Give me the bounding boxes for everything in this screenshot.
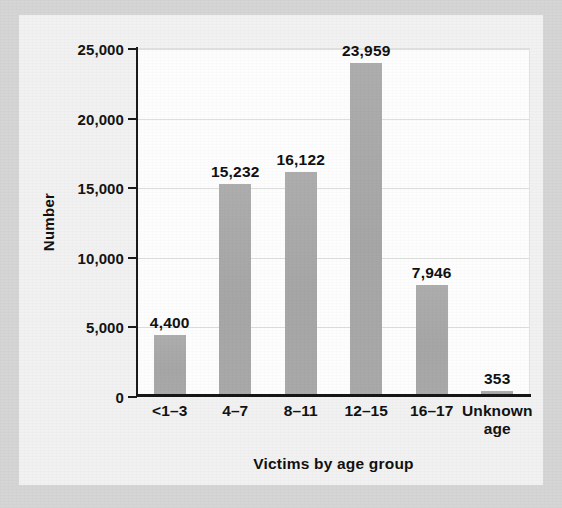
bar[interactable]: [154, 335, 186, 396]
x-axis-tick-label: <1–3: [152, 402, 187, 420]
y-axis-tick-label: 25,000: [78, 41, 124, 58]
bar[interactable]: [219, 184, 251, 396]
x-axis-title: Victims by age group: [137, 455, 530, 473]
x-axis-tick-label: 12–15: [344, 402, 388, 420]
y-axis-title: Number: [40, 193, 57, 251]
gridline: [137, 49, 529, 50]
y-axis-tick-label: 0: [116, 389, 124, 406]
bar-value-label: 15,232: [211, 163, 260, 181]
plot-area: 05,00010,00015,00020,00025,0004,40015,23…: [137, 48, 530, 396]
bar[interactable]: [350, 63, 382, 397]
bar-value-label: 353: [484, 370, 510, 388]
x-axis-tick-label: 4–7: [222, 402, 248, 420]
y-axis-tick-label: 10,000: [78, 249, 124, 266]
bar[interactable]: [416, 285, 448, 396]
gridline: [137, 258, 529, 259]
gridline: [137, 119, 529, 120]
x-axis-tick-label: Unknownage: [459, 402, 535, 438]
gridline: [137, 188, 529, 189]
bar-value-label: 7,946: [412, 264, 452, 282]
bar[interactable]: [285, 172, 317, 396]
y-axis-tick-label: 15,000: [78, 180, 124, 197]
gridline: [137, 327, 529, 328]
x-axis-tick-label: 16–17: [410, 402, 454, 420]
y-axis-tick-label: 5,000: [86, 319, 124, 336]
bar-value-label: 23,959: [342, 42, 391, 60]
x-axis-line: [136, 394, 531, 397]
y-axis-tick-label: 20,000: [78, 110, 124, 127]
figure-canvas: Number 05,00010,00015,00020,00025,0004,4…: [0, 0, 562, 508]
bar-value-label: 16,122: [276, 151, 325, 169]
y-axis-line: [136, 47, 138, 397]
bar-value-label: 4,400: [150, 314, 190, 332]
x-axis-tick-label: 8–11: [284, 402, 318, 420]
